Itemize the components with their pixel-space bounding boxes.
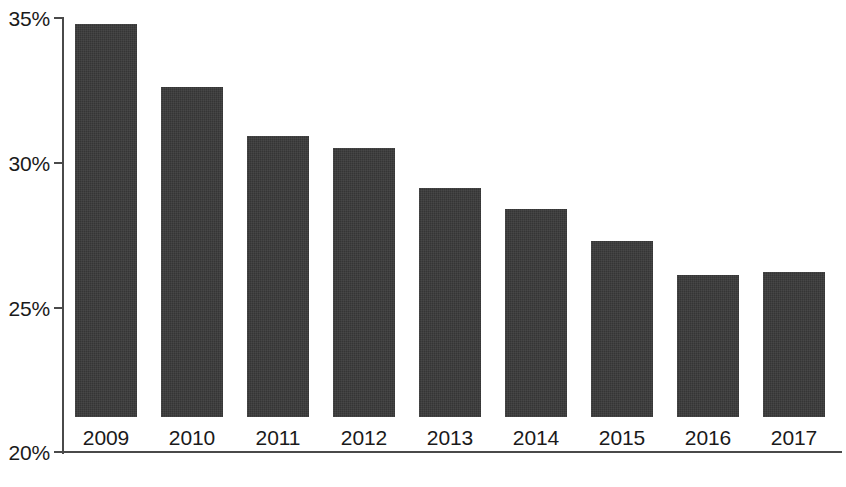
bar-2010[interactable] [161,87,223,417]
y-tick-label-35: 35% [0,7,50,31]
x-tick-label-2014: 2014 [487,426,585,450]
x-tick-label-2011: 2011 [229,426,327,450]
y-tick-label-30: 30% [0,152,50,176]
x-tick-label-2013: 2013 [401,426,499,450]
bar-group-2010: 2010 [161,0,223,452]
x-tick-label-2016: 2016 [659,426,757,450]
bar-2009[interactable] [75,24,137,417]
y-axis-labels: 35% 30% 25% 20% [0,0,50,487]
x-tick-label-2015: 2015 [573,426,671,450]
bar-series: 2009 2010 2011 2012 2013 2014 2015 [64,0,846,452]
bar-group-2016: 2016 [677,0,739,452]
bar-2014[interactable] [505,209,567,417]
bar-2015[interactable] [591,241,653,417]
bar-group-2012: 2012 [333,0,395,452]
y-tick-label-25: 25% [0,297,50,321]
bar-group-2017: 2017 [763,0,825,452]
bar-group-2015: 2015 [591,0,653,452]
bar-2016[interactable] [677,275,739,417]
bar-group-2009: 2009 [75,0,137,452]
bar-2011[interactable] [247,136,309,417]
bar-2017[interactable] [763,272,825,417]
y-tick-label-20: 20% [0,441,50,465]
x-tick-label-2017: 2017 [745,426,843,450]
x-tick-label-2009: 2009 [57,426,155,450]
bar-2013[interactable] [419,188,481,417]
bar-group-2013: 2013 [419,0,481,452]
bar-group-2014: 2014 [505,0,567,452]
x-tick-label-2010: 2010 [143,426,241,450]
bar-group-2011: 2011 [247,0,309,452]
x-tick-label-2012: 2012 [315,426,413,450]
bar-chart: 35% 30% 25% 20% 2009 2010 2011 2012 2 [0,0,846,487]
bar-2012[interactable] [333,148,395,417]
